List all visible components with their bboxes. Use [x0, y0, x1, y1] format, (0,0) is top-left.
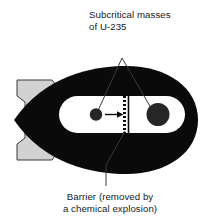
barrier-label: Barrier (removed by a chemical explosion…: [63, 191, 157, 214]
barrier-label-line-1: Barrier (removed by: [67, 191, 154, 202]
barrier-label-line-2: a chemical explosion): [63, 203, 157, 214]
subcritical-masses-label-line-2: of U-235: [89, 21, 127, 32]
subcritical-masses-label: Subcritical masses of U-235: [89, 9, 171, 32]
subcritical-masses-label-line-1: Subcritical masses: [89, 9, 171, 20]
small-subcritical-mass: [90, 108, 102, 120]
diagram-canvas: Subcritical masses of U-235 Barrier (rem…: [0, 0, 218, 223]
